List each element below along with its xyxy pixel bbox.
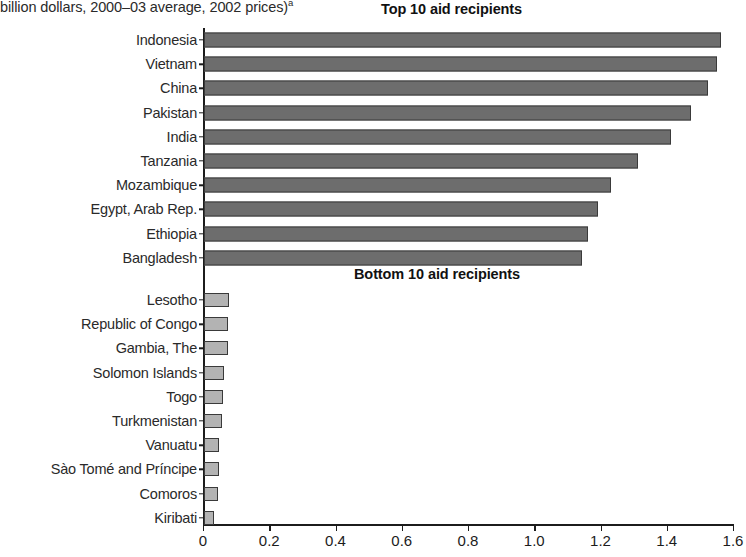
category-label: Kiribati: [154, 511, 197, 526]
bar-row: Solomon Islands: [204, 361, 734, 385]
bar: [204, 154, 638, 169]
x-axis-tick: [733, 524, 734, 531]
x-axis-tick: [468, 524, 469, 531]
category-label: Egypt, Arab Rep.: [91, 202, 197, 217]
category-label: Sào Tomé and Príncipe: [51, 462, 197, 477]
category-label: Indonesia: [136, 33, 197, 48]
x-axis-tick-label: 0.2: [259, 532, 280, 549]
bar: [204, 414, 222, 428]
bar-row: Egypt, Arab Rep.: [204, 197, 734, 221]
category-label: Togo: [166, 390, 197, 405]
unit-note-superscript: a: [288, 0, 293, 8]
bar: [204, 341, 228, 355]
category-label: Mozambique: [116, 178, 197, 193]
x-axis-tick-label: 0.8: [458, 532, 479, 549]
category-label: Turkmenistan: [112, 414, 197, 429]
bar-row: Lesotho: [204, 288, 734, 312]
category-label: Comoros: [140, 486, 197, 501]
bar: [204, 293, 229, 307]
bar-row: Bangladesh: [204, 246, 734, 270]
x-axis-tick-label: 1.6: [723, 532, 744, 549]
category-label: Bangladesh: [122, 251, 197, 266]
category-label: Solomon Islands: [93, 365, 197, 380]
bar-row: Pakistan: [204, 101, 734, 125]
bar: [204, 33, 721, 48]
x-axis-tick: [269, 524, 270, 531]
category-label: China: [160, 81, 197, 96]
bar: [204, 317, 228, 331]
bar-row: Togo: [204, 385, 734, 409]
category-label: Tanzania: [141, 154, 197, 169]
x-axis-tick: [336, 524, 337, 531]
bar-row: China: [204, 76, 734, 100]
x-axis-tick-label: 1.0: [524, 532, 545, 549]
bar: [204, 390, 223, 404]
x-axis-tick-label: 0.4: [325, 532, 346, 549]
bar-row: Mozambique: [204, 173, 734, 197]
category-label: Ethiopia: [146, 226, 197, 241]
bar: [204, 250, 582, 265]
plot-area: IndonesiaVietnamChinaPakistanIndiaTanzan…: [204, 28, 734, 525]
bar-row: Tanzania: [204, 149, 734, 173]
bar: [204, 202, 598, 217]
bar: [204, 178, 611, 193]
category-label: Lesotho: [147, 293, 197, 308]
x-axis-tick-label: 1.4: [656, 532, 677, 549]
bar-row: Republic of Congo: [204, 312, 734, 336]
bar-row: Comoros: [204, 482, 734, 506]
bar-row: Vietnam: [204, 52, 734, 76]
bar: [204, 129, 671, 144]
bar: [204, 105, 691, 120]
top-group-title: Top 10 aid recipients: [381, 1, 522, 17]
x-axis-tick: [402, 524, 403, 531]
bar: [204, 511, 214, 525]
bar-row: India: [204, 125, 734, 149]
category-label: Gambia, The: [116, 341, 197, 356]
bar-row: Ethiopia: [204, 222, 734, 246]
bar-row: Vanuatu: [204, 433, 734, 457]
category-label: Vietnam: [145, 57, 197, 72]
category-label: Republic of Congo: [81, 317, 197, 332]
x-axis-tick: [667, 524, 668, 531]
unit-note: billion dollars, 2000–03 average, 2002 p…: [0, 0, 293, 15]
bar: [204, 226, 588, 241]
bar-row: Indonesia: [204, 28, 734, 52]
bar-row: Sào Tomé and Príncipe: [204, 457, 734, 481]
x-axis-tick: [203, 524, 204, 531]
x-axis-tick-label: 0: [199, 532, 207, 549]
unit-note-text: billion dollars, 2000–03 average, 2002 p…: [0, 0, 288, 15]
x-axis-tick-label: 0.6: [391, 532, 412, 549]
x-axis-tick: [534, 524, 535, 531]
bar: [204, 438, 219, 452]
category-label: Vanuatu: [145, 438, 197, 453]
chart-figure: billion dollars, 2000–03 average, 2002 p…: [0, 0, 746, 557]
bar: [204, 57, 717, 72]
bar-row: Turkmenistan: [204, 409, 734, 433]
bar-row: Gambia, The: [204, 336, 734, 360]
bar: [204, 366, 224, 380]
bar: [204, 462, 219, 476]
x-axis-tick-label: 1.2: [590, 532, 611, 549]
bar: [204, 487, 218, 501]
x-axis-tick: [601, 524, 602, 531]
category-label: Pakistan: [143, 105, 197, 120]
bar: [204, 81, 708, 96]
category-label: India: [167, 130, 197, 145]
